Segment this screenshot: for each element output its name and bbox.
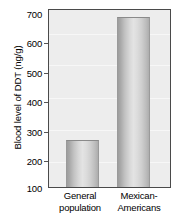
y-tick-label-500: 500 (16, 69, 42, 79)
background-band (49, 65, 170, 66)
background-band (49, 98, 170, 99)
y-tick-label-200: 200 (16, 157, 42, 167)
x-tick-label-line2: Americans (100, 202, 178, 214)
x-axis-tick-labels: General population Mexican- Americans (48, 190, 171, 220)
y-tick-label-100: 100 (16, 184, 42, 194)
bar-general-population (66, 140, 99, 187)
background-band (49, 34, 170, 35)
background-band (49, 130, 170, 131)
y-tick-label-300: 300 (16, 128, 42, 138)
bar-chart: Blood level of DDT (ng/g) 700 600 500 40… (0, 0, 183, 220)
x-tick-label-line1: Mexican- (121, 190, 158, 201)
bar-mexican-americans (117, 17, 150, 187)
plot-area (48, 9, 171, 188)
y-tick-label-400: 400 (16, 98, 42, 108)
x-tick-label-mexican-americans: Mexican- Americans (100, 190, 178, 213)
y-tick-label-600: 600 (16, 39, 42, 49)
y-tick-label-700: 700 (16, 10, 42, 20)
x-tick-label-line1: General (64, 190, 96, 201)
y-axis-tick-labels: 700 600 500 400 300 200 100 (14, 0, 42, 220)
